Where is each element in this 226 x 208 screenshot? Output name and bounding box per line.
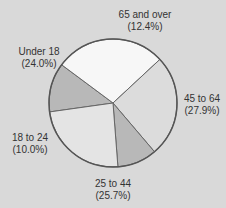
label-45-to-64: 45 to 64 (27.9%) (184, 93, 220, 117)
slice-name: Under 18 (18, 46, 59, 58)
slice-percent: (10.0%) (12, 144, 48, 156)
label-25-to-44: 25 to 44 (25.7%) (95, 178, 131, 202)
slice-percent: (27.9%) (184, 105, 220, 117)
label-65-and-over: 65 and over (12.4%) (119, 9, 172, 33)
label-18-to-24: 18 to 24 (10.0%) (12, 132, 48, 156)
slice-name: 18 to 24 (12, 132, 48, 144)
pie-chart: 65 and over (12.4%) 45 to 64 (27.9%) 25 … (0, 0, 226, 208)
slice-name: 65 and over (119, 9, 172, 21)
slice-name: 25 to 44 (95, 178, 131, 190)
slice-percent: (25.7%) (95, 190, 131, 202)
pie-slice-under-18 (50, 103, 118, 167)
label-under-18: Under 18 (24.0%) (18, 46, 59, 70)
slice-percent: (12.4%) (119, 21, 172, 33)
slice-percent: (24.0%) (18, 58, 59, 70)
slice-name: 45 to 64 (184, 93, 220, 105)
